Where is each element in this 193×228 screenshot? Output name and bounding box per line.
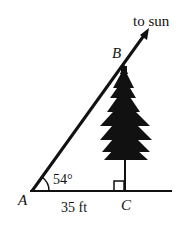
to-sun-label: to sun — [133, 14, 169, 29]
point-b-label: B — [112, 46, 121, 61]
tree-icon — [100, 64, 152, 160]
diagram-canvas — [0, 0, 193, 228]
right-angle-marker — [114, 181, 124, 191]
point-c-label: C — [121, 198, 131, 213]
base-length-label: 35 ft — [61, 201, 87, 215]
angle-label: 54° — [53, 173, 73, 187]
angle-arc — [42, 177, 49, 191]
point-a-label: A — [18, 193, 27, 208]
